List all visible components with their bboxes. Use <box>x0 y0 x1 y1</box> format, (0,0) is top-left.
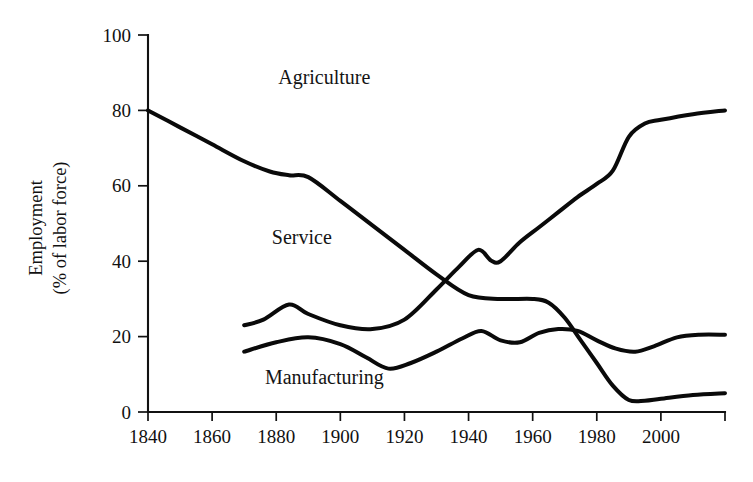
series-line-agriculture <box>148 110 725 401</box>
y-tick-label: 40 <box>112 251 131 272</box>
annotation-manufacturing: Manufacturing <box>265 366 384 389</box>
x-tick-label: 1960 <box>514 426 552 447</box>
x-tick-label: 1980 <box>578 426 616 447</box>
x-tick-label: 1920 <box>385 426 423 447</box>
x-tick-label: 1940 <box>450 426 488 447</box>
annotation-service: Service <box>272 226 332 248</box>
y-axis-ticks <box>138 35 148 412</box>
axis-lines <box>148 35 725 412</box>
y-tick-label: 60 <box>112 175 131 196</box>
y-tick-label: 80 <box>112 100 131 121</box>
y-axis-title: Employment (% of labor force) <box>26 161 71 294</box>
y-axis-title-line1: Employment <box>26 179 46 275</box>
x-tick-label: 1900 <box>321 426 359 447</box>
x-axis-tick-labels: 184018601880190019201940196019802000 <box>129 426 680 447</box>
x-axis-ticks <box>148 412 725 421</box>
x-tick-label: 2000 <box>642 426 680 447</box>
chart-canvas: 184018601880190019201940196019802000 020… <box>0 0 753 482</box>
x-tick-label: 1860 <box>193 426 231 447</box>
x-tick-label: 1880 <box>257 426 295 447</box>
employment-line-chart: 184018601880190019201940196019802000 020… <box>0 0 753 482</box>
x-tick-label: 1840 <box>129 426 167 447</box>
annotation-agriculture: Agriculture <box>278 66 370 89</box>
y-tick-label: 0 <box>122 402 132 423</box>
axes-group <box>138 35 725 421</box>
y-axis-tick-labels: 020406080100 <box>103 25 132 423</box>
y-tick-label: 100 <box>103 25 132 46</box>
series-lines <box>148 110 725 401</box>
y-tick-label: 20 <box>112 326 131 347</box>
series-line-manufacturing <box>244 329 725 369</box>
y-axis-title-line2: (% of labor force) <box>50 161 71 294</box>
